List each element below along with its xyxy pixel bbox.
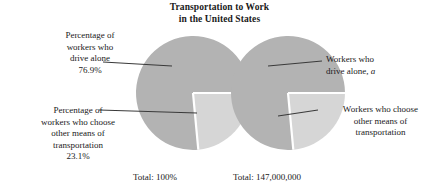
total-right-label: Total: 147,000,000 bbox=[233, 172, 301, 183]
callout-left-drive-alone: Percentage of workers who drive alone 76… bbox=[30, 30, 150, 76]
callout-right-other-means: Workers who choose other means of transp… bbox=[322, 104, 439, 139]
callout-left-drive-alone-line-2: workers who bbox=[30, 42, 150, 54]
callout-left-other-means-line-4: transportation bbox=[8, 140, 148, 152]
callout-left-other-means: Percentage of workers who choose other m… bbox=[8, 105, 148, 163]
callout-right-other-means-line-1: Workers who choose bbox=[322, 104, 439, 116]
total-left-label: Total: 100% bbox=[133, 172, 177, 183]
callout-right-drive-alone-line-2-text: drive alone, bbox=[326, 66, 368, 76]
callout-right-other-means-line-3: transportation bbox=[322, 127, 439, 139]
callout-right-drive-alone-line-1: Workers who bbox=[326, 54, 436, 66]
callout-left-other-means-line-3: other means of bbox=[8, 128, 148, 140]
callout-left-drive-alone-line-3: drive alone bbox=[30, 53, 150, 65]
variable-a: a bbox=[371, 66, 376, 76]
callout-left-drive-alone-value: 76.9% bbox=[30, 65, 150, 77]
callout-left-other-means-line-2: workers who choose bbox=[8, 117, 148, 129]
callout-right-other-means-line-2: other means of bbox=[322, 116, 439, 128]
callout-left-other-means-line-1: Percentage of bbox=[8, 105, 148, 117]
callout-right-drive-alone: Workers who drive alone, a bbox=[326, 54, 436, 77]
pie-chart-figure: Transportation to Work in the United Sta… bbox=[0, 0, 439, 195]
callout-left-drive-alone-line-1: Percentage of bbox=[30, 30, 150, 42]
callout-right-drive-alone-line-2: drive alone, a bbox=[326, 66, 436, 78]
callout-left-other-means-value: 23.1% bbox=[8, 151, 148, 163]
